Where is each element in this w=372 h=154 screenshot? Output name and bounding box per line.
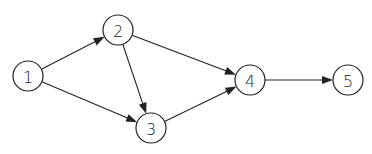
edges-layer — [41, 35, 333, 122]
node-label: 4 — [245, 72, 255, 91]
edge-1-to-3 — [42, 82, 137, 122]
edge-2-to-4 — [132, 35, 236, 74]
edge-line — [123, 44, 145, 108]
node-4: 4 — [235, 65, 265, 95]
arrowhead-icon — [225, 87, 237, 95]
edge-line — [164, 89, 231, 121]
edge-line — [42, 82, 132, 120]
node-label: 1 — [23, 68, 33, 87]
node-5: 5 — [333, 65, 363, 95]
edge-line — [41, 40, 99, 70]
edge-3-to-4 — [164, 87, 236, 122]
arrowhead-icon — [93, 37, 105, 46]
node-1: 1 — [13, 61, 43, 91]
arrowhead-icon — [322, 76, 333, 84]
node-2: 2 — [103, 15, 133, 45]
arrowhead-icon — [125, 114, 137, 122]
node-3: 3 — [136, 113, 166, 143]
edge-line — [132, 35, 230, 72]
edge-1-to-2 — [41, 37, 104, 69]
node-label: 5 — [343, 72, 353, 91]
edge-4-to-5 — [265, 76, 333, 84]
node-label: 3 — [146, 120, 156, 139]
edge-2-to-3 — [123, 44, 147, 114]
arrowhead-icon — [224, 67, 236, 75]
network-diagram: 12345 — [0, 0, 372, 154]
node-label: 2 — [113, 22, 123, 41]
nodes-layer: 12345 — [13, 15, 363, 143]
arrowhead-icon — [139, 102, 147, 114]
